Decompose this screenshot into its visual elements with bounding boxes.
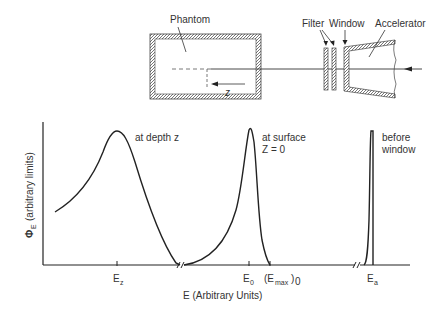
tick-label-e0: E 0	[243, 273, 254, 286]
y-axis-subscript: E	[30, 224, 37, 229]
beam-arrow-icon	[404, 67, 412, 72]
plot: E z E 0 (E max ) 0 E a E (Arbitrary Unit…	[24, 122, 416, 301]
curve-depth-label: at depth z	[135, 132, 179, 143]
curve-before-window	[364, 131, 373, 265]
y-axis-label: Φ E (arbitrary limits)	[24, 152, 37, 238]
filter-label: Filter	[302, 18, 325, 29]
curve-surface	[184, 129, 270, 266]
tick-ez-sub: z	[120, 279, 124, 286]
phantom-label: Phantom	[170, 14, 210, 25]
tick-ea-sub: a	[374, 279, 378, 286]
tick-ea-main: E	[367, 273, 374, 284]
schematic: Phantom z Filter Window Accelerator	[150, 14, 426, 99]
tick-emax-sub2: 0	[295, 276, 301, 287]
curve-surface-label-2: Z = 0	[262, 144, 286, 155]
tick-label-emax: (E max ) 0	[264, 273, 301, 287]
curve-surface-label-1: at surface	[262, 132, 306, 143]
curve-depth-z	[55, 131, 180, 265]
axis-break-2b	[357, 262, 360, 268]
tick-label-ez: E z	[113, 273, 124, 286]
filter-plate-1	[324, 48, 328, 90]
tick-ez-main: E	[113, 273, 120, 284]
curve-window-label-1: before	[382, 132, 411, 143]
phantom-box	[150, 34, 261, 99]
depth-label: z	[224, 87, 230, 98]
accelerator-label: Accelerator	[375, 18, 426, 29]
diagram-canvas: Phantom z Filter Window Accelerator	[0, 0, 436, 310]
axis-break-1b	[181, 262, 184, 268]
y-axis-symbol: Φ	[24, 230, 35, 238]
tick-label-ea: E a	[367, 273, 378, 286]
tick-emax-sub: max	[275, 279, 289, 286]
filter-plate-2	[332, 48, 336, 90]
tick-e0-main: E	[243, 273, 250, 284]
window-arrow-icon	[343, 40, 348, 45]
tick-emax-main: (E	[264, 273, 274, 284]
tick-emax-close: )	[291, 273, 294, 284]
x-axis-label: E (Arbitrary Units)	[183, 290, 262, 301]
y-axis-text: (arbitrary limits)	[24, 152, 35, 221]
filter-arrow-icon-1	[324, 41, 329, 46]
tick-e0-sub: 0	[250, 279, 254, 286]
curve-window-label-2: window	[381, 144, 416, 155]
window-label: Window	[329, 18, 365, 29]
